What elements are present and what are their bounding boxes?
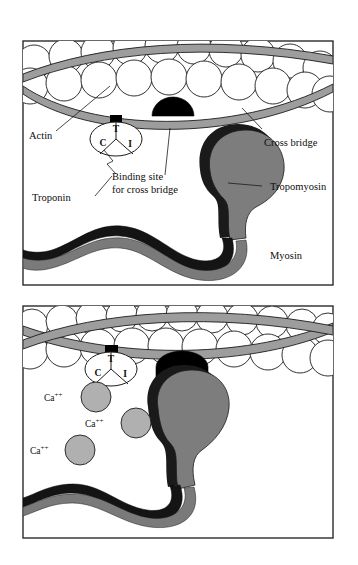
calcium-ion-2 — [121, 408, 151, 438]
troponin-subunit-t-top: T — [113, 124, 120, 134]
calcium-ion-1 — [81, 382, 111, 412]
panel-relaxed-state: T C I — [0, 0, 358, 300]
troponin-subunit-i-top: I — [128, 139, 132, 149]
troponin-subunit-t-bottom: T — [108, 354, 115, 364]
label-cross-bridge-top: Cross bridge — [264, 137, 318, 148]
calcium-ion-3 — [65, 435, 95, 465]
label-binding-site-line2-top: for cross bridge — [112, 184, 178, 195]
label-actin-top: Actin — [29, 130, 53, 141]
figure-root: T C I — [0, 0, 358, 565]
label-troponin-top: Troponin — [32, 192, 71, 203]
panel-calcium-bound-state: T C I Ca++ Ca++ Ca++ — [0, 295, 358, 565]
label-binding-site-line1-top: Binding site — [112, 171, 163, 182]
label-myosin-top: Myosin — [270, 250, 303, 261]
troponin-subunit-c-top: C — [100, 138, 107, 148]
troponin-subunit-i-bottom: I — [123, 369, 127, 379]
troponin-subunit-c-bottom: C — [95, 368, 102, 378]
label-tropomyosin-top: Tropomyosin — [270, 181, 327, 192]
